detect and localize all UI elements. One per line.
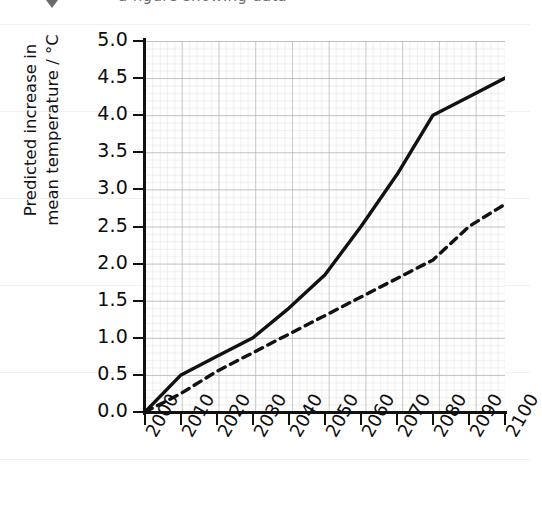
- y-tick-label: 3.0: [70, 176, 128, 198]
- y-tick-mark: [133, 226, 145, 228]
- y-tick-mark: [133, 263, 145, 265]
- plot-area: [145, 41, 505, 412]
- x-tick-label: 2100: [501, 390, 542, 441]
- y-tick-mark: [133, 337, 145, 339]
- y-tick-label: 5.0: [70, 28, 128, 50]
- y-tick-label: 1.0: [70, 325, 128, 347]
- y-tick-label: 2.5: [70, 214, 128, 236]
- y-tick-mark: [133, 77, 145, 79]
- y-tick-label: 0.5: [70, 362, 128, 384]
- y-tick-label: 0.0: [70, 399, 128, 421]
- y-tick-label: 1.5: [70, 288, 128, 310]
- y-tick-label: 4.0: [70, 102, 128, 124]
- y-tick-mark: [133, 411, 145, 413]
- y-tick-mark: [133, 188, 145, 190]
- y-axis-tick-labels: 0.00.51.01.52.02.53.03.54.04.55.0: [70, 0, 128, 509]
- y-tick-label: 4.5: [70, 65, 128, 87]
- y-tick-mark: [133, 300, 145, 302]
- y-tick-mark: [133, 40, 145, 42]
- y-tick-label: 3.5: [70, 139, 128, 161]
- cropped-header-text: a figure showing data: [118, 0, 287, 5]
- y-axis-title: Predicted increase in mean temperature /…: [20, 0, 64, 280]
- plot-canvas: [145, 41, 505, 412]
- y-tick-mark: [133, 114, 145, 116]
- y-tick-label: 2.0: [70, 251, 128, 273]
- y-tick-mark: [133, 151, 145, 153]
- y-tick-mark: [133, 374, 145, 376]
